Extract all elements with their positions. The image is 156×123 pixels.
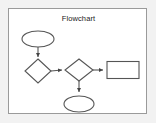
node-decision1-diamond[interactable] xyxy=(25,59,51,83)
flowchart-panel: Flowchart xyxy=(8,8,147,114)
node-process-rectangle[interactable] xyxy=(107,62,139,79)
flowchart-svg xyxy=(9,9,148,115)
node-start-ellipse[interactable] xyxy=(22,31,54,47)
edge-decision1-to-decision2 xyxy=(51,70,62,71)
screenshot-canvas: Flowchart xyxy=(0,0,156,123)
node-decision2-diamond[interactable] xyxy=(65,59,93,81)
flowchart-diagram xyxy=(9,9,148,115)
node-end-ellipse[interactable] xyxy=(64,96,94,112)
